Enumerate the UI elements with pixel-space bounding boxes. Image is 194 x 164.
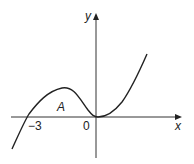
x-axis-label: x	[174, 119, 182, 133]
y-axis-label: y	[84, 9, 92, 23]
y-axis-arrow-icon	[93, 13, 99, 20]
function-graph: y x 0 −3 A	[0, 0, 194, 164]
function-curve	[12, 54, 147, 149]
origin-label: 0	[83, 119, 90, 133]
region-label: A	[56, 100, 65, 114]
x-intercept-label: −3	[28, 119, 42, 133]
